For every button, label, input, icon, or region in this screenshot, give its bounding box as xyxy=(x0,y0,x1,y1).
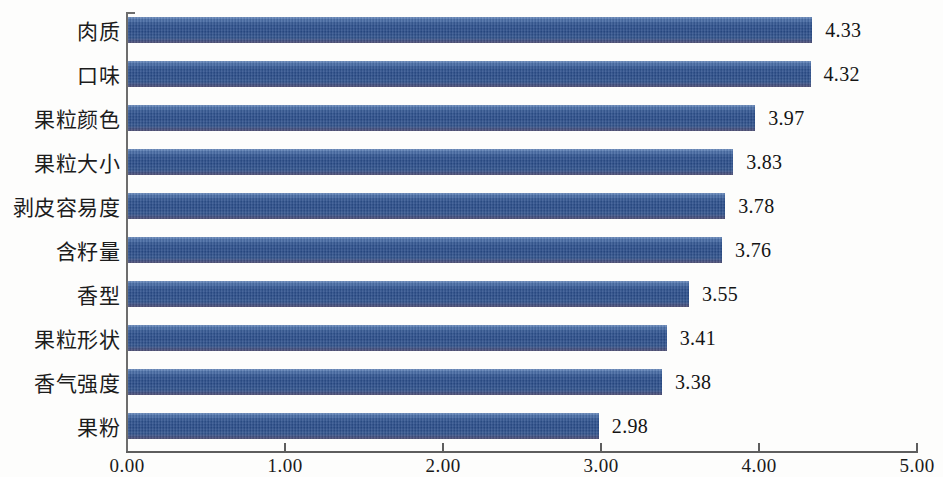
bar-row: 果粒颜色3.97 xyxy=(0,96,943,140)
bar-row: 含籽量3.76 xyxy=(0,228,943,272)
category-label: 含籽量 xyxy=(56,235,121,265)
bar xyxy=(128,325,667,351)
x-axis-tick-label: 1.00 xyxy=(267,455,302,477)
category-label: 果粒形状 xyxy=(34,323,120,353)
bar xyxy=(128,193,725,219)
bar-value-label: 2.98 xyxy=(612,415,648,438)
bar xyxy=(128,237,722,263)
bar xyxy=(128,281,689,307)
category-label: 剥皮容易度 xyxy=(13,191,121,221)
bar xyxy=(128,61,811,87)
bar-value-label: 4.32 xyxy=(824,63,860,86)
bar-row: 果粒大小3.83 xyxy=(0,140,943,184)
x-axis-tick xyxy=(442,443,444,452)
x-axis-tick xyxy=(600,443,602,452)
bar-value-label: 3.97 xyxy=(768,107,804,130)
x-axis-line xyxy=(126,451,918,453)
x-axis-tick-label: 0.00 xyxy=(109,455,144,477)
x-axis-tick xyxy=(284,443,286,452)
category-label: 香型 xyxy=(77,279,120,309)
bar-value-label: 3.76 xyxy=(735,239,771,262)
x-axis-tick-label: 2.00 xyxy=(425,455,460,477)
category-label: 果粉 xyxy=(77,411,120,441)
bar-value-label: 3.38 xyxy=(675,371,711,394)
bar xyxy=(128,149,733,175)
bar xyxy=(128,413,599,439)
bar-row: 香型3.55 xyxy=(0,272,943,316)
bar-row: 果粒形状3.41 xyxy=(0,316,943,360)
bar xyxy=(128,105,755,131)
bar-chart: 肉质4.33口味4.32果粒颜色3.97果粒大小3.83剥皮容易度3.78含籽量… xyxy=(0,0,943,477)
bar-row: 口味4.32 xyxy=(0,52,943,96)
x-axis-tick-label: 5.00 xyxy=(899,455,934,477)
bar-value-label: 4.33 xyxy=(825,19,861,42)
bar-row: 果粉2.98 xyxy=(0,404,943,448)
bar-value-label: 3.83 xyxy=(746,151,782,174)
x-axis-end-cap xyxy=(916,443,918,453)
category-label: 口味 xyxy=(77,59,120,89)
bar-value-label: 3.41 xyxy=(680,327,716,350)
x-axis-tick xyxy=(758,443,760,452)
bar-row: 香气强度3.38 xyxy=(0,360,943,404)
bar-row: 剥皮容易度3.78 xyxy=(0,184,943,228)
category-label: 香气强度 xyxy=(34,367,120,397)
bar xyxy=(128,17,812,43)
x-axis-tick-label: 3.00 xyxy=(583,455,618,477)
x-axis-tick-label: 4.00 xyxy=(741,455,776,477)
bar xyxy=(128,369,662,395)
category-label: 果粒大小 xyxy=(34,147,120,177)
bar-value-label: 3.78 xyxy=(738,195,774,218)
bar-value-label: 3.55 xyxy=(702,283,738,306)
category-label: 肉质 xyxy=(77,15,120,45)
bar-row: 肉质4.33 xyxy=(0,8,943,52)
category-label: 果粒颜色 xyxy=(34,103,120,133)
